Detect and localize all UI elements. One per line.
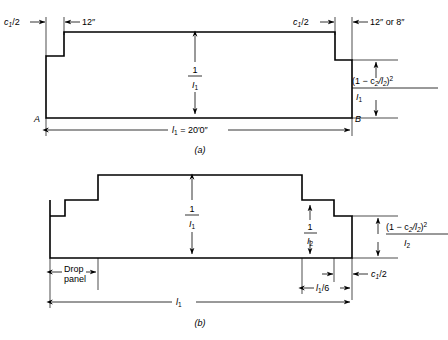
panel-b-column-half-label: c1/2 xyxy=(371,269,387,280)
panel-a-center-fraction: 1 I1 xyxy=(188,65,202,91)
panel-a-end-formula: (1 − c2/l2)2 I1 xyxy=(352,75,438,103)
panel-a-right-extension-lines xyxy=(335,17,352,60)
panel-a: c1/2 12″ c1/2 12″ or 8″ 1 I1 (1 − c2/l2)… xyxy=(4,17,438,155)
panel-b-drop-panel-label-line1: Drop xyxy=(64,264,84,274)
panel-a-left-thickness-label: 12″ xyxy=(82,17,96,27)
stiffness-diagram-svg: c1/2 12″ c1/2 12″ or 8″ 1 I1 (1 − c2/l2)… xyxy=(0,0,448,340)
panel-a-right-thickness-label: 12″ or 8″ xyxy=(370,17,405,27)
panel-b-end-formula-numerator: (1 − c2/l2)2 xyxy=(386,221,428,233)
panel-b-center-fraction-numerator: 1 xyxy=(189,204,194,214)
panel-b: 1 I1 1 I2 (1 − c2/l2)2 I2 Drop panel l1/… xyxy=(50,175,448,328)
panel-a-end-formula-numerator: (1 − c2/l2)2 xyxy=(352,75,394,87)
panel-b-inner-fraction-numerator: 1 xyxy=(307,222,312,232)
panel-a-end-formula-denominator: I1 xyxy=(356,92,363,103)
panel-b-caption: (b) xyxy=(195,318,206,328)
panel-b-center-fraction-denominator: I1 xyxy=(189,219,196,230)
panel-a-point-b-label: B xyxy=(355,114,361,124)
panel-b-center-fraction: 1 I1 xyxy=(185,204,199,230)
panel-a-outline xyxy=(46,32,352,118)
panel-b-sixth-span-dim xyxy=(302,258,352,300)
panel-b-sixth-span-label: l1/6 xyxy=(316,283,329,294)
panel-a-point-a-label: A xyxy=(33,114,40,124)
panel-a-span-label: l1 = 20′0″ xyxy=(172,125,209,136)
panel-a-center-fraction-numerator: 1 xyxy=(192,65,197,75)
panel-b-column-half-dim xyxy=(322,258,368,282)
panel-a-right-column-label: c1/2 xyxy=(293,17,309,28)
panel-b-inner-fraction: 1 I2 xyxy=(304,222,317,247)
panel-a-left-column-label: c1/2 xyxy=(4,17,20,28)
panel-a-left-extension-lines xyxy=(46,17,64,56)
panel-a-center-fraction-denominator: I1 xyxy=(192,80,199,91)
figure-root: c1/2 12″ c1/2 12″ or 8″ 1 I1 (1 − c2/l2)… xyxy=(0,0,448,340)
panel-b-drop-panel-label: Drop panel xyxy=(64,264,86,284)
panel-b-span-label: l1 xyxy=(176,297,182,308)
panel-a-end-dim xyxy=(352,60,398,118)
panel-b-span-dim xyxy=(50,290,350,308)
panel-b-end-formula: (1 − c2/l2)2 I2 xyxy=(386,221,448,249)
panel-b-inner-fraction-denominator: I2 xyxy=(307,236,314,247)
panel-b-drop-panel-label-line2: panel xyxy=(64,274,86,284)
panel-b-end-formula-denominator: I2 xyxy=(404,238,411,249)
panel-a-caption: (a) xyxy=(195,145,206,155)
